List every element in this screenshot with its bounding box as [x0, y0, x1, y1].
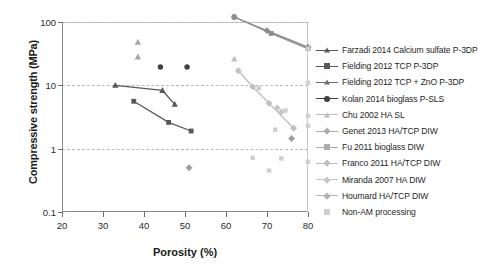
legend-label: Fielding 2012 TCP + ZnO P-3DP — [342, 77, 464, 87]
legend-marker-glyph — [324, 128, 331, 135]
data-point — [306, 81, 310, 85]
series-kolan-2014-bioglass-p-sls — [158, 64, 190, 69]
legend-marker-glyph — [324, 96, 330, 102]
legend-marker-glyph — [324, 192, 331, 199]
legend-item[interactable]: Kolan 2014 bioglass P-SLS — [316, 91, 474, 107]
data-point — [184, 64, 189, 69]
data-point — [257, 86, 261, 90]
data-point — [306, 46, 310, 50]
plot-area: 0.1110100 20304050607080 — [62, 22, 308, 212]
legend-item[interactable]: Farzadi 2014 Calcium sulfate P-3DP — [316, 42, 474, 58]
data-point — [231, 56, 237, 62]
x-tick-mark — [185, 212, 186, 217]
legend-item[interactable]: Fu 2011 bioglass DIW — [316, 139, 474, 155]
legend-marker-triangle-icon — [316, 43, 338, 57]
data-point — [269, 31, 274, 36]
legend-item[interactable]: Franco 2011 HA/TCP DIW — [316, 155, 474, 171]
series-line — [238, 71, 293, 129]
legend-item[interactable]: Non-AM processing — [316, 204, 474, 220]
legend-marker-glyph — [324, 176, 331, 183]
legend-marker-diamond-icon — [316, 156, 338, 170]
y-tick-label: 1 — [51, 143, 56, 154]
series-line — [115, 85, 174, 104]
x-axis-title: Porosity (%) — [60, 246, 310, 258]
x-tick-label: 40 — [139, 220, 150, 231]
legend-marker-diamond-icon — [316, 124, 338, 138]
data-point — [279, 156, 283, 160]
x-tick-label: 30 — [98, 220, 109, 231]
x-tick-label: 80 — [303, 220, 314, 231]
legend-item[interactable]: Genet 2013 HA/TCP DIW — [316, 123, 474, 139]
data-point — [232, 15, 237, 20]
legend-marker-circle-icon — [316, 92, 338, 106]
legend-label: Fu 2011 bioglass DIW — [342, 142, 424, 152]
legend-label: Miranda 2007 HA DIW — [342, 175, 426, 185]
data-point — [267, 168, 271, 172]
legend-label: Chu 2002 HA SL — [342, 110, 405, 120]
series-fu-2011-bioglass-diw — [232, 15, 311, 51]
x-tick-mark — [144, 212, 145, 217]
series-line — [134, 101, 191, 131]
legend-item[interactable]: Fielding 2012 TCP P-3DP — [316, 58, 474, 74]
y-tick-label: 10 — [45, 80, 56, 91]
legend-marker-glyph — [324, 112, 330, 117]
legend-label: Farzadi 2014 Calcium sulfate P-3DP — [342, 45, 478, 55]
series-houmard-ha-tcp-diw — [186, 135, 295, 171]
legend-marker-glyph — [324, 209, 330, 215]
data-point — [306, 124, 310, 128]
legend-marker-diamond-icon — [316, 173, 338, 187]
data-series-layer — [62, 22, 308, 212]
legend-marker-triangle-icon — [316, 75, 338, 89]
legend-item[interactable]: Miranda 2007 HA DIW — [316, 172, 474, 188]
legend-marker-glyph — [324, 144, 330, 150]
legend-marker-square-icon — [316, 59, 338, 73]
x-tick-label: 70 — [262, 220, 273, 231]
legend-label: Genet 2013 HA/TCP DIW — [342, 126, 438, 136]
x-tick-label: 20 — [57, 220, 68, 231]
legend-marker-glyph — [324, 160, 331, 167]
data-point — [135, 39, 141, 45]
x-tick-mark — [267, 212, 268, 217]
legend-marker-square-icon — [316, 140, 338, 154]
legend-item[interactable]: Houmard HA/TCP DIW — [316, 188, 474, 204]
x-tick-mark — [226, 212, 227, 217]
legend-marker-glyph — [324, 80, 330, 85]
legend-label: Non-AM processing — [342, 207, 416, 217]
y-tick-label: 100 — [40, 17, 56, 28]
y-tick-label: 0.1 — [43, 207, 56, 218]
legend-marker-glyph — [324, 63, 330, 69]
data-point — [189, 129, 194, 134]
series-fielding-2012-tcp-p-3dp — [131, 99, 193, 134]
data-point — [306, 160, 310, 164]
x-tick-mark — [308, 212, 309, 217]
series-franco-2011-ha-tcp-diw — [235, 67, 297, 131]
data-point — [131, 99, 136, 104]
x-tick-label: 60 — [221, 220, 232, 231]
data-point — [186, 164, 193, 171]
legend-item[interactable]: Chu 2002 HA SL — [316, 107, 474, 123]
legend-marker-glyph — [324, 48, 330, 53]
data-point — [166, 120, 171, 125]
data-point — [135, 54, 141, 60]
data-point — [158, 64, 163, 69]
series-chu-2002-ha-sl — [231, 56, 237, 62]
data-point — [273, 127, 277, 131]
x-tick-mark — [62, 212, 63, 217]
data-point — [250, 156, 254, 160]
legend-marker-square-icon — [316, 205, 338, 219]
y-axis-title: Compressive strength (MPa) — [27, 17, 39, 207]
x-tick-label: 50 — [180, 220, 191, 231]
chart-legend: Farzadi 2014 Calcium sulfate P-3DPFieldi… — [316, 42, 474, 220]
data-point — [288, 135, 295, 142]
series-farzadi-2014-calcium-sulfate-p-3dp — [112, 82, 178, 107]
legend-marker-diamond-icon — [316, 189, 338, 203]
series-fielding-2012-tcp-zno-p-3dp — [135, 39, 141, 60]
legend-label: Kolan 2014 bioglass P-SLS — [342, 94, 444, 104]
legend-label: Fielding 2012 TCP P-3DP — [342, 61, 438, 71]
legend-marker-triangle-icon — [316, 108, 338, 122]
data-point — [283, 108, 287, 112]
legend-label: Houmard HA/TCP DIW — [342, 191, 428, 201]
legend-label: Franco 2011 HA/TCP DIW — [342, 158, 440, 168]
legend-item[interactable]: Fielding 2012 TCP + ZnO P-3DP — [316, 74, 474, 90]
